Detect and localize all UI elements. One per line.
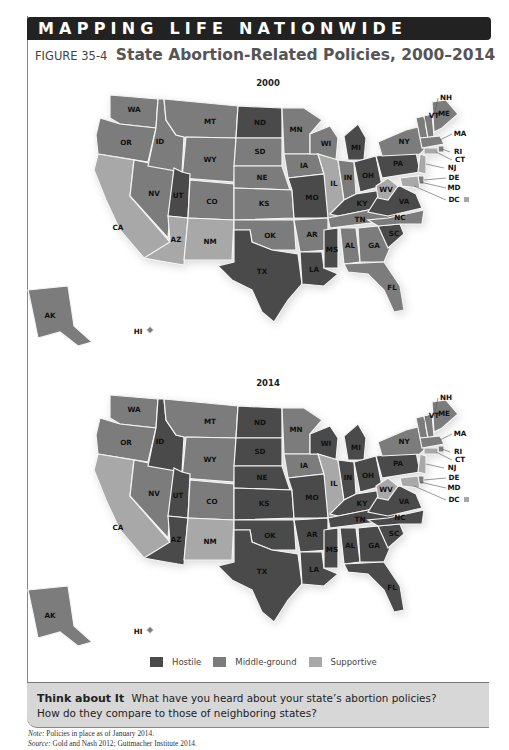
note-line: Note: Policies in place as of January 20… bbox=[28, 729, 197, 739]
figure-number: FIGURE 35-4 bbox=[35, 49, 107, 63]
state-md bbox=[400, 476, 420, 488]
state-ct bbox=[424, 448, 438, 454]
state-label-wy: WY bbox=[203, 155, 217, 164]
state-label-ny: NY bbox=[398, 137, 410, 146]
state-nj bbox=[418, 154, 426, 174]
notes: Note: Policies in place as of January 20… bbox=[28, 729, 197, 748]
state-label-ky: KY bbox=[357, 499, 369, 508]
state-label-nm: NM bbox=[203, 537, 216, 546]
state-label-az: AZ bbox=[171, 235, 182, 244]
state-label-id: ID bbox=[156, 437, 165, 446]
state-mt bbox=[164, 99, 238, 138]
state-label-mi: MI bbox=[351, 143, 361, 152]
state-label-ga: GA bbox=[368, 241, 380, 250]
legend-label: Hostile bbox=[172, 657, 201, 667]
state-label-al: AL bbox=[345, 241, 356, 250]
state-label-wv: WV bbox=[379, 485, 393, 494]
source-text: Gold and Nash 2012; Guttmacher Institute… bbox=[51, 739, 197, 748]
state-label-wa: WA bbox=[127, 105, 141, 114]
state-ak bbox=[28, 286, 92, 346]
state-label-md: MD bbox=[447, 183, 460, 192]
state-label-sc: SC bbox=[389, 529, 399, 538]
state-label-or: OR bbox=[120, 138, 132, 147]
state-label-nh: NH bbox=[440, 393, 452, 402]
state-ri bbox=[438, 146, 444, 152]
state-label-nv: NV bbox=[148, 189, 160, 198]
state-label-ms: MS bbox=[326, 545, 338, 554]
state-label-oh: OH bbox=[362, 171, 374, 180]
state-label-tn: TN bbox=[355, 215, 366, 224]
state-label-vt: VT bbox=[429, 411, 440, 420]
state-label-ma: MA bbox=[454, 129, 467, 138]
source-label: Source: bbox=[28, 739, 51, 748]
state-label-ar: AR bbox=[306, 230, 318, 239]
legend-label: Middle-ground bbox=[235, 657, 296, 667]
state-label-tn: TN bbox=[355, 515, 366, 524]
state-label-de: DE bbox=[449, 173, 460, 182]
swatch-hostile bbox=[150, 657, 163, 667]
state-label-mt: MT bbox=[204, 417, 216, 426]
state-label-ok: OK bbox=[264, 531, 276, 540]
state-label-mn: MN bbox=[289, 425, 302, 434]
state-label-va: VA bbox=[399, 197, 410, 206]
think-text-block: Think about It What have you heard about… bbox=[37, 691, 459, 720]
state-label-sd: SD bbox=[254, 147, 265, 156]
state-label-wy: WY bbox=[203, 455, 217, 464]
state-label-ne: NE bbox=[257, 173, 268, 182]
state-label-de: DE bbox=[449, 473, 460, 482]
state-nj bbox=[418, 454, 426, 474]
state-label-il: IL bbox=[330, 479, 338, 488]
state-label-sd: SD bbox=[254, 447, 265, 456]
state-ak bbox=[28, 586, 92, 646]
map-year-label: 2014 bbox=[256, 378, 280, 388]
note-text: Policies in place as of January 2014. bbox=[44, 729, 154, 738]
state-mt bbox=[164, 399, 238, 438]
state-label-ms: MS bbox=[326, 245, 338, 254]
state-label-ia: IA bbox=[300, 461, 309, 470]
state-hi bbox=[146, 326, 154, 334]
state-label-mi: MI bbox=[351, 443, 361, 452]
state-label-tx: TX bbox=[257, 567, 268, 576]
state-label-mo: MO bbox=[305, 193, 318, 202]
state-label-vt: VT bbox=[429, 111, 440, 120]
state-label-hi: HI bbox=[134, 627, 143, 636]
state-label-ne: NE bbox=[257, 473, 268, 482]
state-label-ak: AK bbox=[44, 611, 56, 620]
state-label-nh: NH bbox=[440, 93, 452, 102]
dc-swatch bbox=[464, 197, 469, 202]
state-label-me: ME bbox=[438, 109, 450, 118]
state-label-nc: NC bbox=[394, 213, 405, 222]
state-label-ga: GA bbox=[368, 541, 380, 550]
state-label-ar: AR bbox=[306, 530, 318, 539]
figure-title: FIGURE 35-4 State Abortion-Related Polic… bbox=[35, 46, 495, 64]
figure-name: State Abortion-Related Policies, 2000–20… bbox=[116, 46, 495, 64]
state-label-ut: UT bbox=[173, 191, 184, 200]
state-label-pa: PA bbox=[393, 459, 404, 468]
state-label-nj: NJ bbox=[448, 463, 457, 472]
think-about-it-box: Think about It What have you heard about… bbox=[27, 682, 489, 728]
think-heading: Think about It bbox=[37, 692, 124, 705]
state-label-wv: WV bbox=[379, 185, 393, 194]
state-label-mt: MT bbox=[204, 117, 216, 126]
state-label-mn: MN bbox=[289, 125, 302, 134]
state-label-co: CO bbox=[206, 197, 217, 206]
map-2000: 2000WAORCANVIDMTWYUTCOAZNMNDSDNEKSOKTXMN… bbox=[0, 72, 509, 372]
state-label-ky: KY bbox=[357, 199, 369, 208]
state-hi bbox=[146, 626, 154, 634]
source-line: Source: Gold and Nash 2012; Guttmacher I… bbox=[28, 739, 197, 749]
state-label-ny: NY bbox=[398, 437, 410, 446]
state-label-va: VA bbox=[399, 497, 410, 506]
state-label-sc: SC bbox=[389, 229, 399, 238]
state-ct bbox=[424, 148, 438, 154]
state-md bbox=[400, 176, 420, 188]
state-label-dc: DC bbox=[448, 495, 459, 504]
swatch-middle bbox=[213, 657, 226, 667]
state-label-nv: NV bbox=[148, 489, 160, 498]
state-label-in: IN bbox=[344, 473, 353, 482]
state-label-me: ME bbox=[438, 409, 450, 418]
state-label-az: AZ bbox=[171, 535, 182, 544]
state-ri bbox=[438, 446, 444, 452]
state-label-or: OR bbox=[120, 438, 132, 447]
state-label-ks: KS bbox=[259, 199, 270, 208]
note-label: Note: bbox=[28, 729, 44, 738]
